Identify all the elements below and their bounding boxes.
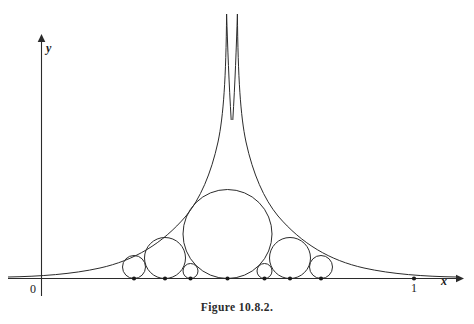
envelope-cusp-left-tail: [227, 14, 232, 120]
ford-circle-half: [183, 190, 272, 279]
axes-group: [8, 34, 464, 296]
ford-circle-three-fifths: [257, 264, 272, 279]
tangent-dot-one: [412, 276, 416, 280]
envelope-curve-right-branch: [237, 14, 456, 277]
ford-circle-three-quarters: [310, 256, 333, 279]
y-axis-arrowhead: [38, 34, 46, 42]
envelope-cusp-right-tail: [233, 14, 238, 120]
envelope-curve-group: [8, 14, 456, 277]
figure-caption: Figure 10.8.2.: [0, 301, 474, 313]
ford-circles-figure: y x 0 1: [0, 0, 474, 324]
tangent-dot-one-quarter: [132, 276, 136, 280]
tangent-dot-two-fifths: [188, 276, 192, 280]
origin-label: 0: [30, 282, 36, 296]
x-tick-label-one: 1: [411, 281, 417, 295]
tangent-dot-one-half: [225, 276, 229, 280]
tangent-dot-two-thirds: [288, 276, 292, 280]
tangent-dot-one-third: [163, 276, 167, 280]
ford-circle-two-fifths: [183, 264, 198, 279]
tangent-dot-three-fifths: [262, 276, 266, 280]
x-axis-label: x: [440, 274, 447, 288]
ford-circles-group: [123, 190, 333, 279]
ford-circle-one-third: [145, 238, 186, 279]
tangent-dot-three-quarters: [319, 276, 323, 280]
y-axis-label: y: [44, 41, 52, 55]
ford-circle-one-quarter: [123, 256, 146, 279]
x-axis-arrowhead: [456, 275, 464, 283]
figure-root: y x 0 1 Figure 10.8.2.: [0, 0, 474, 324]
envelope-curve-left-branch: [8, 14, 227, 277]
ford-circle-two-thirds: [270, 238, 311, 279]
